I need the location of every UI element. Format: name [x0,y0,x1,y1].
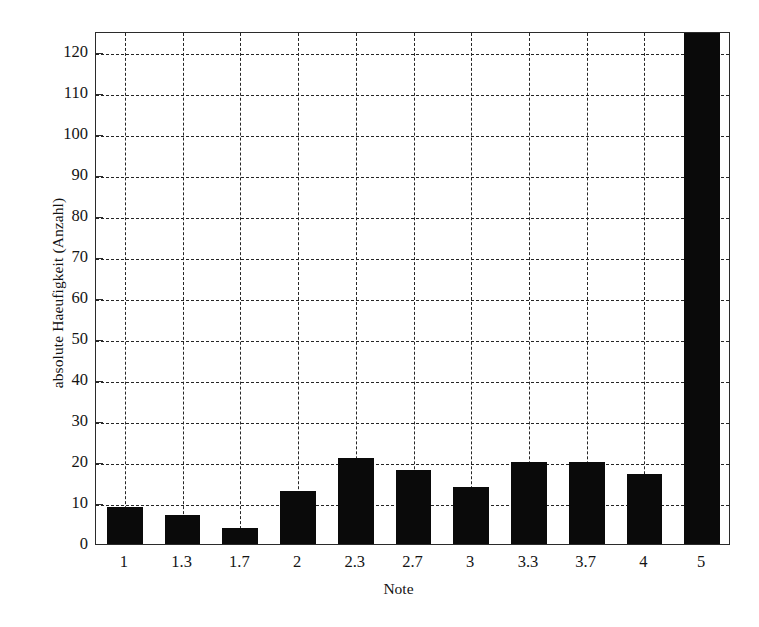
y-axis-tick-mark [95,258,103,259]
gridline-horizontal [96,382,729,383]
bar [396,470,432,544]
y-axis-tick-label: 0 [4,536,88,553]
bar [511,462,547,544]
y-axis-tick-label: 70 [4,249,88,266]
gridline-horizontal [96,423,729,424]
gridline-horizontal [96,218,729,219]
y-axis-tick-label: 80 [4,208,88,225]
plot-area [95,32,730,545]
gridline-horizontal [96,95,729,96]
gridline-vertical [414,33,415,544]
y-axis-tick-mark [95,299,103,300]
gridline-vertical [471,33,472,544]
y-axis-tick-label: 40 [4,372,88,389]
gridline-horizontal [96,136,729,137]
gridline-horizontal [96,464,729,465]
bar [222,528,258,544]
x-axis-title-text: Note [383,580,413,598]
y-axis-tick-mark [95,463,103,464]
y-axis-tick-mark [95,176,103,177]
bar [107,507,143,544]
bar [627,474,663,544]
gridline-vertical [125,33,126,544]
bar [453,487,489,544]
y-axis-tick-mark [95,422,103,423]
gridline-horizontal [96,300,729,301]
y-axis-tick-mark [95,53,103,54]
bar [165,515,201,544]
y-axis-tick-mark [95,340,103,341]
y-axis-tick-mark [95,217,103,218]
gridline-horizontal [96,341,729,342]
y-axis-tick-label: 60 [4,290,88,307]
y-axis-tick-label: 50 [4,331,88,348]
x-axis-title: Note [0,580,759,598]
gridline-vertical [240,33,241,544]
y-axis-tick-mark [95,135,103,136]
bar [280,491,316,544]
gridline-horizontal [96,177,729,178]
x-axis-tick-label: 5 [666,552,736,572]
gridline-vertical [298,33,299,544]
gridline-vertical [183,33,184,544]
bar-chart-figure: absolute Haeufigkeit (Anzahl) 0102030405… [0,0,759,627]
y-axis-tick-mark [95,381,103,382]
gridline-horizontal [96,54,729,55]
bar [569,462,605,544]
y-axis-tick-label: 100 [4,126,88,143]
bar [684,32,720,544]
y-axis-tick-label: 90 [4,167,88,184]
y-axis-tick-label: 20 [4,454,88,471]
y-axis-tick-label: 120 [4,44,88,61]
y-axis-tick-label: 110 [4,85,88,102]
y-axis-tick-mark [95,504,103,505]
y-axis-tick-label: 10 [4,495,88,512]
y-axis-tick-labels: 0102030405060708090100110120 [0,32,88,545]
gridline-vertical [644,33,645,544]
y-axis-tick-label: 30 [4,413,88,430]
gridline-horizontal [96,259,729,260]
bar [338,458,374,544]
y-axis-tick-mark [95,94,103,95]
